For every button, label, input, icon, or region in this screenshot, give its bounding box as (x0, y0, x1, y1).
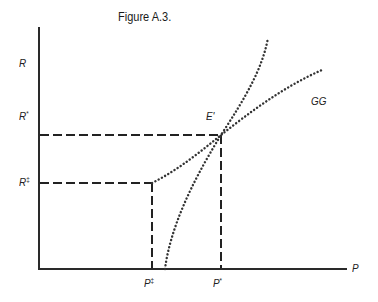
r-dagger-label: R‡ (19, 176, 30, 188)
x-axis-label: P (352, 262, 359, 274)
p-dagger-label: P‡ (144, 277, 154, 289)
y-axis-label: R (19, 57, 26, 69)
p-star-label: P* (213, 277, 222, 289)
chart-canvas (0, 0, 378, 302)
steep-curve (165, 38, 268, 269)
gg-curve (152, 70, 322, 183)
equilibrium-label: E' (206, 110, 214, 122)
gg-curve-label: GG (311, 95, 326, 107)
r-star-label: R* (19, 110, 29, 122)
